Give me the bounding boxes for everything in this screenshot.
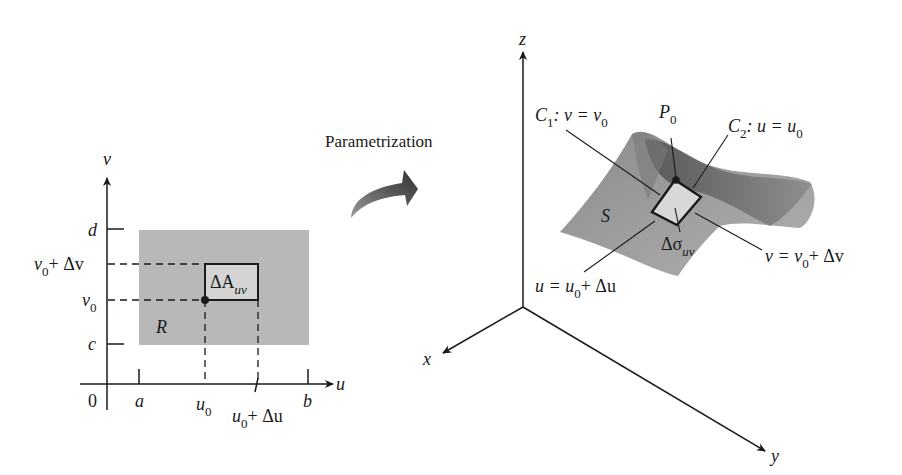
parametrization-diagram: v u 0 a b c d u0 u0+ Δu v0 v0+ Δv R ΔAuv… — [0, 0, 902, 475]
u0-label: u0 — [196, 394, 212, 419]
y-axis-label: y — [769, 446, 779, 466]
z-axis-label: z — [518, 29, 526, 49]
v-line-label: v = v0+ Δv — [765, 246, 844, 271]
uv-plane: v u 0 a b c d u0 u0+ Δu v0 v0+ Δv R ΔAuv — [34, 149, 345, 431]
xyz-space: z x y C1: v = v0 P0 C2: u = u0 S Δσuv v … — [422, 29, 844, 466]
curved-arrow-icon — [351, 170, 418, 218]
c1-label: C1: v = v0 — [535, 105, 608, 130]
v0-label: v0 — [82, 290, 97, 315]
p0-label: P0 — [658, 102, 677, 127]
v0-plus-dv-label: v0+ Δv — [34, 254, 84, 279]
u-axis-label: u — [336, 374, 345, 394]
point-u0-v0 — [201, 296, 209, 304]
y-axis — [523, 307, 765, 451]
u0-plus-du-label: u0+ Δu — [232, 406, 283, 431]
tick-d-label: d — [88, 220, 98, 240]
tick-a-label: a — [135, 391, 144, 411]
tick-c-label: c — [88, 334, 96, 354]
x-axis — [443, 307, 523, 353]
parametrization-title: Parametrization — [325, 132, 433, 151]
surface-label: S — [601, 206, 610, 226]
origin-label: 0 — [88, 391, 97, 411]
v-axis-label: v — [103, 149, 111, 169]
c2-label: C2: u = u0 — [728, 116, 803, 141]
parametrization-arrow: Parametrization — [325, 132, 433, 218]
tick-b-label: b — [303, 391, 312, 411]
u-line-label: u = u0+ Δu — [535, 276, 616, 301]
x-axis-label: x — [422, 349, 431, 369]
region-label: R — [155, 317, 167, 337]
